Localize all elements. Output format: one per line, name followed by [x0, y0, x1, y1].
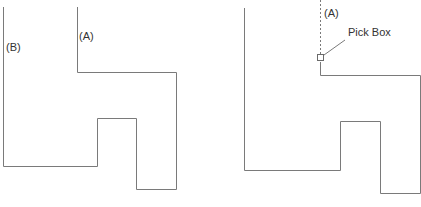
right-solid-outline [245, 8, 421, 194]
pick-box-icon [318, 55, 324, 61]
left-label-b: (B) [6, 42, 21, 53]
right-outline [245, 0, 421, 194]
left-label-a: (A) [79, 31, 94, 42]
pick-box-label: Pick Box [348, 27, 391, 38]
pick-box-leader-line [324, 40, 345, 55]
right-label-a: (A) [324, 8, 339, 19]
